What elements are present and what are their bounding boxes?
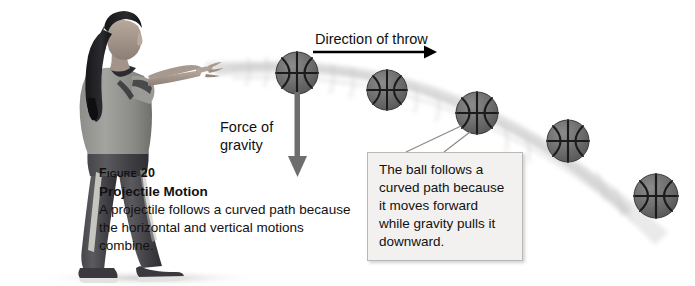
figure-caption: Figure 20 Projectile Motion A projectile…	[99, 166, 354, 255]
callout-box: The ball follows a curved path because i…	[367, 152, 523, 261]
force-of-gravity-label: Force of gravity	[220, 118, 300, 154]
direction-of-throw-label: Direction of throw	[315, 30, 428, 48]
callout-text: The ball follows a curved path because i…	[379, 162, 504, 249]
caption-body: A projectile follows a curved path becau…	[99, 201, 354, 254]
basketball-4	[547, 120, 589, 162]
basketball-5	[634, 174, 678, 218]
caption-figure-number: Figure 20	[99, 166, 354, 182]
basketball-1	[276, 52, 318, 94]
projectile-motion-figure: Direction of throw Force of gravity Figu…	[0, 0, 695, 286]
callout-leader-lines	[406, 126, 470, 152]
caption-title: Projectile Motion	[99, 183, 354, 201]
basketball-3	[456, 92, 498, 134]
basketball-2	[367, 70, 407, 110]
